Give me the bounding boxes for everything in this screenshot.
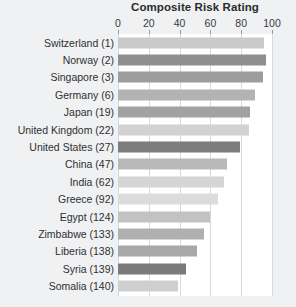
bar xyxy=(118,228,204,239)
bar xyxy=(118,37,264,48)
category-label: Singapore (3) xyxy=(50,71,114,83)
category-label: India (62) xyxy=(70,176,114,188)
x-axis: 020406080100 xyxy=(0,17,296,31)
chart-title: Composite Risk Rating xyxy=(118,1,272,13)
bar-row: India (62) xyxy=(0,173,296,190)
category-label: Syria (139) xyxy=(63,263,114,275)
bar xyxy=(118,281,178,292)
bar-row: Singapore (3) xyxy=(0,69,296,86)
bar xyxy=(118,124,249,135)
category-label: Greece (92) xyxy=(58,193,114,205)
bar-row: Zimbabwe (133) xyxy=(0,225,296,242)
bar-row: Somalia (140) xyxy=(0,277,296,294)
category-label: Egypt (124) xyxy=(60,211,114,223)
bar xyxy=(118,176,224,187)
bar-row: United Kingdom (22) xyxy=(0,121,296,138)
category-label: Switzerland (1) xyxy=(44,37,114,49)
bar-row: Greece (92) xyxy=(0,191,296,208)
bar xyxy=(118,211,210,222)
category-label: Zimbabwe (133) xyxy=(38,228,114,240)
x-tick-label-80: 80 xyxy=(235,17,247,29)
bar-row: Japan (19) xyxy=(0,104,296,121)
bar-row: China (47) xyxy=(0,156,296,173)
bar-row: Syria (139) xyxy=(0,260,296,277)
category-label: Somalia (140) xyxy=(49,280,114,292)
x-tick-label-20: 20 xyxy=(143,17,155,29)
bar xyxy=(118,246,197,257)
bar-row: Germany (6) xyxy=(0,86,296,103)
x-tick-label-100: 100 xyxy=(263,17,281,29)
bar xyxy=(118,89,255,100)
x-tick-label-0: 0 xyxy=(115,17,121,29)
bar xyxy=(118,159,227,170)
bar-row: Liberia (138) xyxy=(0,243,296,260)
x-tick-label-60: 60 xyxy=(205,17,217,29)
category-label: Germany (6) xyxy=(55,89,114,101)
bar xyxy=(118,72,263,83)
bar xyxy=(118,55,266,66)
category-label: United Kingdom (22) xyxy=(18,124,114,136)
bar-row: Norway (2) xyxy=(0,51,296,68)
bar xyxy=(118,263,186,274)
category-label: United States (27) xyxy=(29,141,114,153)
bar-row: Egypt (124) xyxy=(0,208,296,225)
bar xyxy=(118,142,240,153)
x-tick-label-40: 40 xyxy=(174,17,186,29)
bar-rows: Switzerland (1)Norway (2)Singapore (3)Ge… xyxy=(0,34,296,296)
category-label: China (47) xyxy=(65,158,114,170)
bar xyxy=(118,194,218,205)
category-label: Liberia (138) xyxy=(55,245,114,257)
bar-row: Switzerland (1) xyxy=(0,34,296,51)
category-label: Norway (2) xyxy=(63,54,114,66)
category-label: Japan (19) xyxy=(64,106,114,118)
bar-row: United States (27) xyxy=(0,138,296,155)
composite-risk-rating-chart: Composite Risk Rating 020406080100 Switz… xyxy=(0,0,296,307)
bar xyxy=(118,107,250,118)
